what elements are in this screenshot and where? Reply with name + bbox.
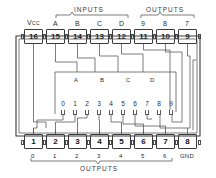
pin-7[interactable]: 7	[156, 134, 175, 149]
output-right-routing	[144, 46, 191, 128]
inner-output-digit-1: 1	[72, 101, 78, 108]
inner-output-digit-8: 8	[156, 101, 162, 108]
bottom-signal-label-4: 4	[119, 153, 123, 159]
output-terminal-1	[73, 110, 77, 115]
output-terminal-0	[61, 110, 65, 115]
input-routing	[56, 48, 144, 72]
bottom-signal-label-2: 2	[75, 153, 79, 159]
top-signal-label-b: B	[75, 20, 80, 27]
inner-output-digit-6: 6	[132, 101, 138, 108]
top-signal-label-8: 8	[163, 20, 167, 27]
gnd-label: GND	[180, 153, 194, 159]
bottom-signal-label-0: 0	[31, 153, 35, 159]
output-terminal-8	[157, 110, 161, 115]
top-pin-leads	[34, 44, 188, 58]
pin-16[interactable]: 16	[24, 29, 43, 44]
inner-output-digit-5: 5	[120, 101, 126, 108]
output-terminal-2	[85, 110, 89, 115]
inner-input-label-a: A	[74, 77, 78, 83]
output-terminal-7	[145, 110, 149, 115]
inner-output-digit-4: 4	[108, 101, 114, 108]
top-signal-label-7: 7	[185, 20, 189, 27]
pin-1[interactable]: 1	[24, 134, 43, 149]
wiring-layer	[0, 0, 216, 178]
output-terminal-9	[169, 110, 173, 115]
pin-10[interactable]: 10	[156, 29, 175, 44]
output-terminal-6	[133, 110, 137, 115]
pin-2[interactable]: 2	[46, 134, 65, 149]
output-terminal-3	[97, 110, 101, 115]
pin-12[interactable]: 12	[112, 29, 131, 44]
vcc-label: VCC	[27, 19, 40, 26]
outputs-top-group-label: OUTPUTS	[146, 7, 184, 14]
inner-input-label-b: B	[100, 77, 104, 83]
output-left-routing	[34, 115, 166, 134]
bottom-signal-label-1: 1	[53, 153, 57, 159]
pin-11[interactable]: 11	[134, 29, 153, 44]
pin-15[interactable]: 15	[46, 29, 65, 44]
vcc-trace	[34, 52, 47, 128]
inner-output-digit-2: 2	[84, 101, 90, 108]
inner-output-digit-3: 3	[96, 101, 102, 108]
gnd-trace	[188, 60, 197, 134]
inner-output-digit-7: 7	[144, 101, 150, 108]
ic-pinout-diagram: INPUTS OUTPUTS VCC A B C D 9 8 7 16 15 1…	[0, 0, 216, 178]
pin-5[interactable]: 5	[112, 134, 131, 149]
pin-3[interactable]: 3	[68, 134, 87, 149]
inner-input-label-d: D	[150, 77, 155, 83]
inner-output-digit-0: 0	[60, 101, 66, 108]
top-signal-label-c: C	[97, 20, 102, 27]
inputs-group-label: INPUTS	[74, 7, 104, 14]
pin-9[interactable]: 9	[178, 29, 197, 44]
top-signal-label-9: 9	[141, 20, 145, 27]
pin-4[interactable]: 4	[90, 134, 109, 149]
pin-13[interactable]: 13	[90, 29, 109, 44]
chip-outline	[16, 36, 200, 136]
pin-6[interactable]: 6	[134, 134, 153, 149]
pin-14[interactable]: 14	[68, 29, 87, 44]
inner-output-digit-9: 9	[168, 101, 174, 108]
vcc-subscript: CC	[32, 20, 40, 26]
outputs-bottom-group-label: OUTPUTS	[80, 166, 118, 173]
top-signal-label-d: D	[119, 20, 124, 27]
output-terminal-5	[121, 110, 125, 115]
bottom-signal-label-6: 6	[163, 153, 167, 159]
pin-8[interactable]: 8	[178, 134, 197, 149]
bottom-signal-label-5: 5	[141, 153, 145, 159]
bottom-signal-label-3: 3	[97, 153, 101, 159]
output-terminal-4	[109, 110, 113, 115]
top-signal-label-a: A	[53, 20, 58, 27]
inner-input-label-c: C	[126, 77, 131, 83]
